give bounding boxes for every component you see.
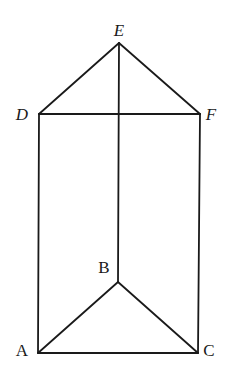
vertex-label-c: C bbox=[203, 341, 214, 360]
vertex-labels: ABCDEF bbox=[15, 21, 217, 360]
edge-de bbox=[39, 43, 119, 114]
vertex-label-a: A bbox=[16, 341, 29, 360]
edge-be bbox=[118, 43, 119, 282]
vertex-label-f: F bbox=[205, 105, 217, 124]
edge-ad bbox=[38, 114, 39, 353]
vertex-label-d: D bbox=[15, 105, 29, 124]
prism-diagram: ABCDEF bbox=[0, 0, 231, 373]
edge-cf bbox=[198, 114, 200, 353]
vertex-label-e: E bbox=[113, 21, 125, 40]
edge-bc bbox=[118, 282, 198, 353]
prism-edges bbox=[38, 43, 200, 353]
vertex-label-b: B bbox=[98, 258, 109, 277]
edge-ab bbox=[38, 282, 118, 353]
edge-ef bbox=[119, 43, 200, 114]
